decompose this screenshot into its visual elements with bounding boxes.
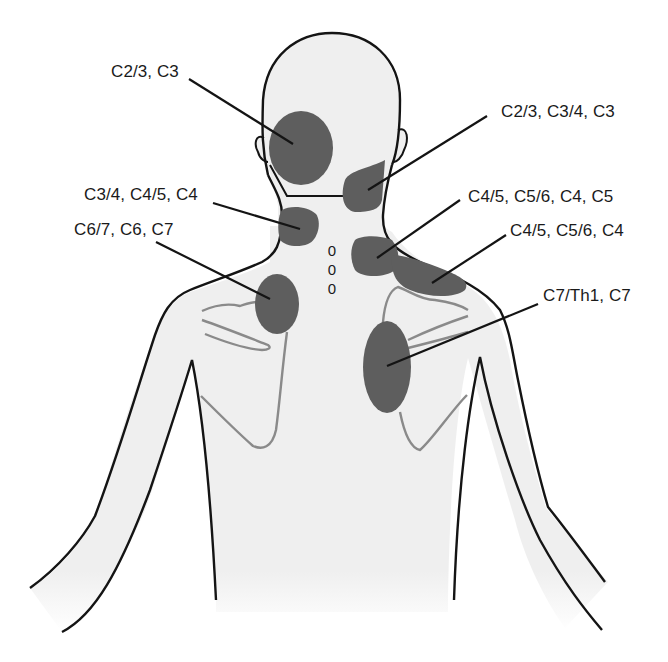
label-c67-c6-c7: C6/7, C6, C7 <box>74 221 173 238</box>
pain-zone-scapula-medial-right <box>363 321 411 413</box>
label-c23-c3: C2/3, C3 <box>111 63 179 80</box>
leader-c45-c56-c4 <box>432 235 506 283</box>
label-c45-c56-c4-c5: C4/5, C5/6, C4, C5 <box>468 188 613 205</box>
label-c23-c34-c3: C2/3, C3/4, C3 <box>501 103 615 120</box>
label-c7th1-c7: C7/Th1, C7 <box>543 287 631 304</box>
pain-zone-lower-neck-right <box>351 236 398 276</box>
pain-zone-mid-neck-left <box>278 207 319 246</box>
leader-c45-c56-c4-c5 <box>377 200 460 258</box>
label-c34-c45-c4: C3/4, C4/5, C4 <box>84 186 198 203</box>
label-c45-c56-c4: C4/5, C5/6, C4 <box>510 222 624 239</box>
spinous-mark: 0 <box>325 241 339 260</box>
torso-fill <box>30 226 608 632</box>
spinous-process-marks: 0 0 0 <box>325 241 339 298</box>
body-illustration <box>0 0 668 662</box>
pain-zone-occipital-left <box>269 111 333 185</box>
spinous-mark: 0 <box>325 279 339 298</box>
spinous-mark: 0 <box>325 260 339 279</box>
referred-pain-figure: 0 0 0 C2/3, C3 C2/3, C3/4, C3 C3/4, C4/5… <box>0 0 668 662</box>
pain-zone-scapula-upper-left <box>255 274 299 334</box>
